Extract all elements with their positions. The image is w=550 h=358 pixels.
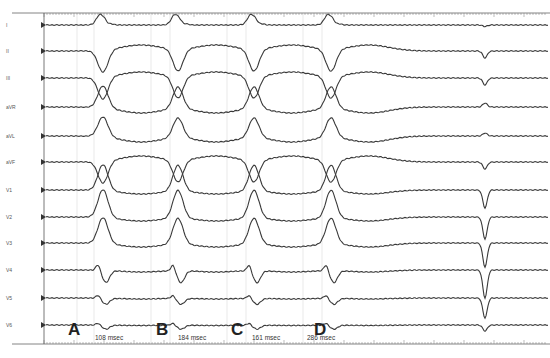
- trace-iii: [46, 72, 548, 100]
- lead-label-v4: V4: [6, 267, 12, 273]
- interval-label: 108 msec: [95, 334, 123, 341]
- trace-avr: [46, 86, 548, 113]
- trace-ii: [46, 45, 548, 73]
- lead-label-avl: aVL: [6, 133, 15, 139]
- interval-label: 286 msec: [307, 334, 335, 341]
- lead-label-v5: V5: [6, 295, 12, 301]
- trace-v3: [46, 218, 548, 267]
- trace-v6: [46, 323, 548, 331]
- ecg-waveforms: [0, 0, 550, 358]
- marker-c: C: [231, 320, 243, 340]
- interval-label: 161 msec: [252, 334, 280, 341]
- trace-v2: [46, 190, 548, 239]
- marker-a: A: [68, 320, 80, 340]
- ecg-tracing-panel: IIIIIIaVRaVLaVFV1V2V3V4V5V6ABCD108 msec1…: [0, 0, 550, 358]
- trace-v4: [46, 265, 548, 298]
- lead-label-i: I: [6, 22, 7, 28]
- lead-label-iii: III: [6, 75, 10, 81]
- lead-label-ii: II: [6, 48, 9, 54]
- trace-avl: [46, 117, 548, 142]
- trace-avf: [46, 156, 548, 184]
- trace-v5: [46, 295, 548, 318]
- interval-label: 184 msec: [178, 334, 206, 341]
- lead-label-v2: V2: [6, 214, 12, 220]
- lead-label-v3: V3: [6, 240, 12, 246]
- marker-b: B: [156, 320, 168, 340]
- trace-v1: [46, 165, 548, 208]
- lead-label-avf: aVF: [6, 159, 15, 165]
- trace-i: [46, 14, 548, 27]
- lead-label-v6: V6: [6, 322, 12, 328]
- lead-label-avr: aVR: [6, 104, 16, 110]
- lead-label-v1: V1: [6, 187, 12, 193]
